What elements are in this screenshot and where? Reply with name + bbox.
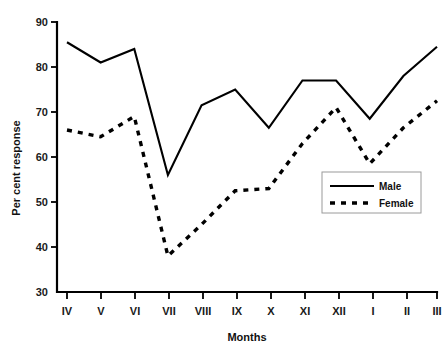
y-tick-label: 90: [36, 16, 48, 28]
x-tick-labels: IV V VI VII VIII IX X XI XII I II III: [62, 305, 442, 317]
y-tick-label: 60: [36, 151, 48, 163]
legend-label-male: Male: [379, 181, 402, 192]
y-tick-label: 80: [36, 61, 48, 73]
x-tick-label: II: [404, 305, 410, 317]
x-tick-label: IV: [62, 305, 73, 317]
x-tick-label: XI: [300, 305, 310, 317]
y-tick-labels: 90 80 70 60 50 40 30: [36, 16, 48, 298]
y-tick-label: 70: [36, 106, 48, 118]
x-axis-title: Months: [227, 331, 266, 343]
x-tick-label: X: [267, 305, 275, 317]
legend-label-female: Female: [379, 198, 414, 209]
x-tick-label: XII: [332, 305, 345, 317]
line-chart: Per cent response 90 80 70 60 50 40 30: [0, 0, 446, 356]
axis-lines: [57, 22, 437, 292]
x-tick-label: IX: [232, 305, 243, 317]
x-tick-label: III: [432, 305, 441, 317]
series-line-male: [67, 42, 437, 175]
y-tick-label: 50: [36, 196, 48, 208]
y-tick-label: 40: [36, 241, 48, 253]
x-tick-label: I: [371, 305, 374, 317]
x-tick-label: VI: [130, 305, 140, 317]
x-tick-label: VII: [162, 305, 175, 317]
x-tick-label: VIII: [195, 305, 212, 317]
y-tick-label: 30: [36, 286, 48, 298]
legend: Male Female: [322, 172, 421, 213]
chart-container: Per cent response 90 80 70 60 50 40 30: [0, 0, 446, 356]
y-axis-title: Per cent response: [10, 120, 22, 215]
x-tick-label: V: [97, 305, 105, 317]
